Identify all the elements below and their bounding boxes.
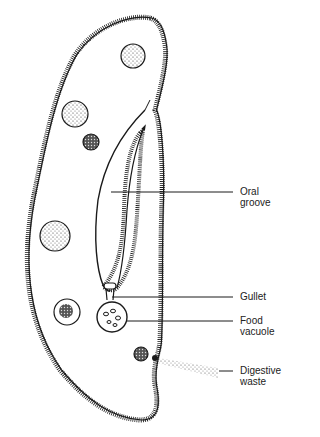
organelles <box>40 44 148 361</box>
label-oral-groove: Oral groove <box>240 186 271 208</box>
cell-body <box>27 17 167 420</box>
digestive-waste-spray <box>152 355 218 378</box>
oral-groove-shape <box>96 100 150 291</box>
label-line: Food <box>240 315 274 326</box>
label-line: groove <box>240 197 271 208</box>
label-line: Gullet <box>240 291 266 302</box>
label-gullet: Gullet <box>240 291 266 302</box>
label-line: vacuole <box>240 326 274 337</box>
label-food-vacuole: Food vacuole <box>240 315 274 337</box>
label-line: Oral <box>240 186 271 197</box>
food-vacuole-shape <box>97 302 127 332</box>
label-line: waste <box>240 376 281 387</box>
label-line: Digestive <box>240 365 281 376</box>
leader-lines <box>111 192 233 371</box>
label-digestive-waste: Digestive waste <box>240 365 281 387</box>
